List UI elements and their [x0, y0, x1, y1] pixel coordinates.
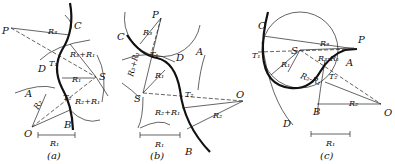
label-R3: R₃ — [142, 28, 152, 37]
label-D: D — [175, 52, 184, 63]
arc-A — [198, 55, 205, 90]
label-P: P — [151, 9, 159, 20]
label-R1: R₁ — [154, 71, 164, 80]
label-D: D — [282, 118, 291, 129]
label-D: D — [37, 63, 46, 74]
label-A: A — [345, 57, 353, 68]
tangent-arcs-figure: P C D A B O S T₁ T₂ R₃ R₃+R₁ R₁ R₂+R₁ R₂… — [0, 0, 395, 164]
scale-label: R₁ — [154, 140, 164, 149]
arc-C — [124, 12, 200, 57]
label-O: O — [236, 89, 244, 100]
label-C: C — [117, 31, 125, 42]
label-R2: R₂ — [348, 99, 358, 108]
label-R3: R₃ — [319, 39, 329, 48]
label-R2: R₂ — [31, 99, 44, 112]
label-A: A — [195, 46, 203, 57]
panel-c: P C D A B O S T₁ T₂ R₃ R₃-R₁ R₁ R₂-R₁ R₂… — [252, 12, 392, 161]
panel-a: P C D A B O S T₁ T₂ R₃ R₃+R₁ R₁ R₂+R₁ R₂… — [1, 3, 108, 161]
label-R3: R₃ — [47, 27, 57, 36]
label-R3-plus-R1: R₃+R₁ — [69, 50, 95, 59]
caption-b: (b) — [150, 150, 164, 161]
label-S: S — [134, 93, 141, 104]
caption-c: (c) — [320, 150, 334, 161]
scale-label: R₁ — [325, 139, 335, 148]
label-T1: T₁ — [252, 51, 261, 60]
reverse-curve — [57, 3, 73, 130]
label-R2-plus-R1: R₂+R₁ — [154, 108, 180, 117]
label-S: S — [291, 45, 298, 56]
label-R2-plus-R1: R₂+R₁ — [74, 97, 100, 106]
label-C: C — [74, 20, 82, 31]
label-P: P — [357, 34, 365, 45]
label-B: B — [184, 146, 192, 157]
label-T1: T₁ — [49, 59, 58, 68]
label-B: B — [63, 119, 71, 130]
label-T2: T₂ — [63, 93, 72, 102]
label-O: O — [384, 107, 392, 118]
scale-label: R₁ — [49, 139, 59, 148]
label-R3-minus-R1: R₃-R₁ — [317, 54, 339, 63]
label-T2: T₂ — [185, 90, 194, 99]
arc-A — [15, 86, 55, 93]
label-R1: R₁ — [280, 60, 290, 69]
label-B: B — [312, 106, 320, 117]
label-T2: T₂ — [329, 72, 338, 81]
label-R3-plus-R1: R₃+R₁ — [126, 51, 141, 79]
label-T1: T₁ — [150, 50, 159, 59]
label-A: A — [24, 88, 32, 99]
caption-a: (a) — [47, 150, 61, 161]
label-S: S — [99, 71, 106, 82]
label-R2: R₂ — [212, 111, 222, 120]
label-C: C — [258, 20, 266, 31]
panel-b: P C D A B O S T₁ T₂ R₃ R₃+R₁ R₁ R₂+R₁ R₂… — [117, 9, 244, 161]
label-P: P — [1, 25, 9, 36]
label-O: O — [24, 128, 32, 139]
label-R1: R₁ — [71, 75, 81, 84]
